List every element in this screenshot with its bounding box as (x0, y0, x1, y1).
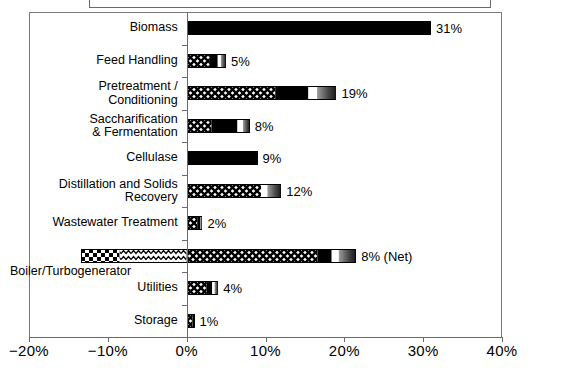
bar-segment-solid-black (206, 281, 212, 295)
bar (187, 314, 195, 328)
bar-value-label: 8% (255, 118, 274, 133)
bar-segment-white (261, 184, 267, 198)
bar (187, 119, 250, 133)
category-label: Pretreatment / Conditioning (3, 80, 178, 107)
bar (187, 86, 337, 100)
bar-segment-gray-gradient (317, 86, 337, 100)
x-tick-label: 30% (408, 342, 439, 359)
bar-segment-solid-black (211, 119, 237, 133)
bar (187, 54, 226, 68)
x-tick-label: 20% (329, 342, 360, 359)
category-label: Saccharification & Fermentation (3, 112, 178, 139)
bar-segment-solid-black (275, 86, 308, 100)
bar-segment-gray-gradient (267, 184, 281, 198)
x-tick-label: 40% (487, 342, 518, 359)
bar-segment-solid-black (197, 216, 200, 230)
bar-segment-white (237, 119, 243, 133)
bar-segment-white (212, 281, 214, 295)
bar-segment-crosshatch (187, 86, 275, 100)
category-label: Cellulase (3, 152, 178, 166)
top-cutoff-box (89, 0, 491, 8)
bar (187, 281, 219, 295)
bar-segment-solid-black (187, 21, 431, 35)
bar-segment-crosshatch (187, 249, 318, 263)
bar-segment-wavy (120, 249, 187, 263)
bar-segment-solid-black (318, 249, 332, 263)
bar (81, 249, 356, 263)
bar-value-label: 9% (263, 151, 282, 166)
bar-value-label: 5% (231, 53, 250, 68)
bar-value-label: 19% (341, 86, 367, 101)
bar-value-label: 12% (286, 183, 312, 198)
bar-segment-crosshatch (187, 119, 211, 133)
bar-value-label: 8% (Net) (361, 248, 412, 263)
bar-segment-crosshatch (187, 54, 210, 68)
bar-segment-white (217, 54, 220, 68)
x-tick-label: −20% (9, 342, 49, 359)
category-label: Boiler/Turbogenerator (10, 265, 210, 279)
zero-reference-line (187, 12, 188, 337)
category-label: Storage (3, 314, 178, 328)
category-label: Feed Handling (3, 54, 178, 68)
bar-value-label: 4% (223, 281, 242, 296)
bar-segment-solid-black (187, 151, 258, 165)
bar (187, 184, 282, 198)
x-tick-label: 10% (250, 342, 281, 359)
bar-segment-crosshatch (187, 281, 207, 295)
x-tick-label: 0% (176, 342, 198, 359)
bar (187, 151, 258, 165)
bar-value-label: 31% (436, 21, 462, 36)
bar-segment-solid-black (210, 54, 218, 68)
bar-segment-checkerboard (81, 249, 120, 263)
category-label: Wastewater Treatment (3, 217, 178, 231)
bar-segment-gray-gradient (339, 249, 356, 263)
bar (187, 216, 203, 230)
chart-screenshot: −20%−10%0%10%20%30%40% BiomassFeed Handl… (0, 0, 561, 373)
bar-segment-crosshatch (187, 184, 261, 198)
bar-segment-white (308, 86, 317, 100)
bar-value-label: 2% (207, 216, 226, 231)
bar (187, 21, 431, 35)
category-label: Distillation and Solids Recovery (3, 177, 178, 204)
category-label: Utilities (3, 282, 178, 296)
bar-segment-gray-gradient (243, 119, 250, 133)
bar-segment-crosshatch (187, 216, 197, 230)
bar-value-label: 1% (200, 313, 219, 328)
bar-segment-white (332, 249, 339, 263)
x-tick-label: −10% (88, 342, 128, 359)
category-label: Biomass (3, 22, 178, 36)
